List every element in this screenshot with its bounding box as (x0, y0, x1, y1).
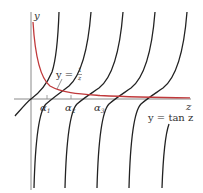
reciprocal-label: y = 1 z (55, 66, 82, 81)
tan-reciprocal-diagram: y z y = 1 z α1 α2 α3 y = tan z (0, 0, 203, 193)
y-axis-label: y (33, 10, 40, 21)
reciprocal-label-prefix: y = (55, 69, 73, 80)
tan-label: y = tan z (147, 112, 193, 123)
x-axis-label: z (185, 101, 192, 112)
alpha-1-label: α1 (40, 102, 51, 114)
reciprocal-curve (33, 22, 190, 98)
alpha-2-label: α2 (65, 102, 76, 114)
alpha-3-label: α3 (94, 102, 105, 114)
reciprocal-label-leader (57, 79, 62, 89)
tan-curve (15, 12, 187, 188)
reciprocal-label-denominator: z (77, 74, 82, 81)
reciprocal-label-numerator: 1 (78, 66, 82, 73)
